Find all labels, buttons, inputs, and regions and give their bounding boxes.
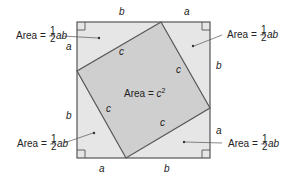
svg-text:Area =: Area = (228, 138, 258, 149)
hypotenuse-label: c (106, 103, 111, 114)
svg-text:Area =: Area = (16, 30, 46, 41)
svg-text:ab: ab (268, 138, 280, 149)
triangle-area-label-top-right: Area = 1 2 ab (227, 24, 279, 43)
hypotenuse-label: c (119, 46, 124, 57)
inner-area-label: Area = c2 (124, 87, 166, 99)
edge-label-bottom-right: b (164, 163, 170, 174)
edge-label-right-bottom: a (216, 125, 222, 136)
svg-text:ab: ab (57, 138, 69, 149)
edge-label-left-bottom: b (66, 110, 72, 121)
arrowhead-icon (93, 132, 95, 134)
edge-label-left-top: a (66, 41, 72, 52)
triangle-area-label-top-left: Area = 1 2 ab (16, 25, 68, 44)
triangle-area-label-bottom-right: Area = 1 2 ab (228, 133, 280, 152)
hypotenuse-label: c (160, 117, 165, 128)
svg-text:Area =: Area = (17, 138, 47, 149)
svg-text:ab: ab (56, 30, 68, 41)
triangle-area-label-bottom-left: Area = 1 2 ab (17, 133, 69, 152)
svg-text:ab: ab (267, 29, 279, 40)
pythagorean-diagram: b a a b b a a b c c c c Area = c2 Area =… (0, 0, 284, 179)
edge-label-top-left: b (119, 6, 125, 17)
hypotenuse-label: c (176, 64, 181, 75)
arrowhead-icon (98, 37, 100, 39)
edge-label-bottom-left: a (99, 163, 105, 174)
svg-text:Area =: Area = (227, 29, 257, 40)
arrowhead-icon (192, 45, 194, 47)
edge-label-right-top: b (216, 60, 222, 71)
arrowhead-icon (183, 141, 185, 143)
edge-label-top-right: a (184, 6, 190, 17)
